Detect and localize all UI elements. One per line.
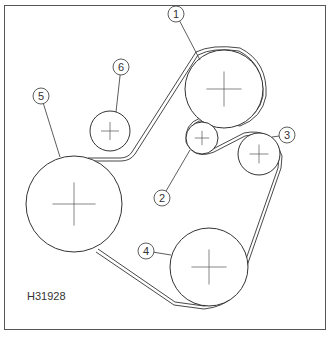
leader-line (116, 75, 120, 112)
pulley-6: 6 (90, 59, 130, 151)
callout-label: 3 (284, 129, 290, 141)
callout-label: 2 (159, 192, 165, 204)
reference-code: H31928 (27, 290, 66, 302)
callout-label: 6 (118, 61, 124, 73)
belt-routing-diagram: 123456 H31928 (0, 0, 333, 343)
leader-line (43, 104, 60, 157)
leader-line (272, 136, 279, 137)
callout-label: 5 (38, 90, 44, 102)
pulley-3: 3 (238, 127, 295, 175)
callout-label: 1 (173, 8, 179, 20)
leader-line (154, 252, 171, 255)
pulley-2: 2 (154, 122, 218, 206)
pulley-4: 4 (138, 228, 248, 306)
pulley-1: 1 (168, 6, 263, 128)
leader-line (166, 150, 190, 191)
leader-line (180, 21, 200, 60)
callout-label: 4 (143, 245, 149, 257)
